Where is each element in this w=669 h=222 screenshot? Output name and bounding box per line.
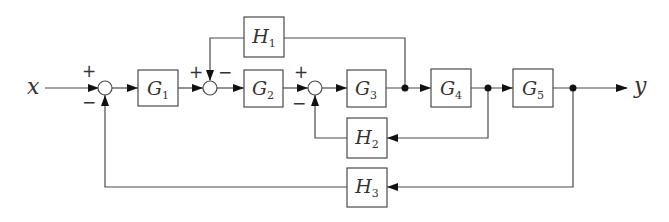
block-label: G [522,77,537,99]
arrowhead-icon [88,84,99,92]
block-label: H [251,25,269,47]
arrowhead-icon [192,84,203,92]
summing-junction-circle [308,81,322,95]
block-subscript: 2 [267,89,274,102]
block-label: G [147,77,162,99]
block-label: H [354,175,372,197]
arrowhead-icon [233,84,244,92]
sign-plus: + [189,62,203,82]
block-subscript: 5 [537,89,544,102]
block-subscript: 3 [370,89,377,102]
sign-plus: + [294,62,308,82]
block-subscript: 3 [372,187,379,200]
block-g4: G4 [431,69,471,107]
takeoff-node-3 [570,85,577,92]
arrowhead-icon [336,84,347,92]
block-subscript: 1 [162,89,169,102]
sign-minus: − [218,62,232,82]
block-subscript: 4 [455,89,462,102]
block-label: H [354,126,372,148]
wire-h3-sum1 [105,95,347,187]
block-h2: H2 [347,118,387,158]
sign-plus: + [82,61,96,81]
arrowhead-icon [616,84,628,92]
block-h3: H3 [347,168,387,207]
takeoff-node-1 [402,85,409,92]
arrowhead-icon [387,134,398,142]
block-g1: G1 [138,70,178,106]
summing-junction-circle [98,81,112,95]
arrowhead-icon [311,95,319,106]
sign-minus: − [292,93,306,113]
wire-h2-sum3 [315,95,347,138]
sign-minus: − [82,92,96,112]
block-g3: G3 [347,70,386,107]
arrowhead-icon [127,84,138,92]
arrowhead-icon [297,84,308,92]
arrowhead-icon [387,183,398,191]
output-label: y [633,73,647,98]
summing-junction-circle [203,81,217,95]
block-label: G [440,77,455,99]
takeoff-node-2 [485,85,492,92]
block-g2: G2 [244,70,283,107]
block-subscript: 2 [372,138,379,151]
arrowhead-icon [420,84,431,92]
block-label: G [355,77,370,99]
input-label: x [27,74,40,99]
block-subscript: 1 [269,37,276,50]
block-h1: H1 [244,17,284,57]
feedback-paths [101,38,573,191]
block-label: G [252,77,267,99]
block-g5: G5 [513,69,553,107]
arrowhead-icon [206,70,214,81]
arrowhead-icon [101,95,109,106]
block-diagram: + − + − + − G1 G2 G3 G4 G5 H1 H2 H [0,0,669,222]
arrowhead-icon [502,84,513,92]
